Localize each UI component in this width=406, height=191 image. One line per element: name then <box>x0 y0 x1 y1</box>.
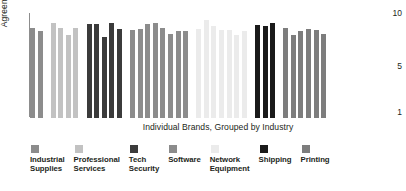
chart-legend: Industrial SuppliesProfessional Services… <box>30 145 406 173</box>
bar-group <box>255 8 278 118</box>
bar <box>314 30 319 118</box>
bar-chart: Agreement 10 5 1 Individual Brands, Grou… <box>0 0 406 191</box>
bar <box>73 28 78 118</box>
bar-group <box>130 8 191 118</box>
bar <box>30 28 35 118</box>
legend-swatch-icon <box>169 145 177 153</box>
legend-swatch-icon <box>75 145 83 153</box>
bar <box>176 31 181 118</box>
bar-group <box>30 8 45 118</box>
bar <box>298 31 303 118</box>
bar <box>219 30 224 118</box>
bar <box>138 29 143 118</box>
bar <box>242 31 247 118</box>
bar <box>283 28 288 118</box>
bar <box>255 25 260 118</box>
x-axis-label: Individual Brands, Grouped by Industry <box>30 122 406 132</box>
bar <box>204 20 209 118</box>
legend-item-professional-services[interactable]: Professional Services <box>74 145 120 173</box>
legend-swatch-icon <box>31 145 39 153</box>
bar-group <box>87 8 125 118</box>
bar-group <box>196 8 249 118</box>
bar-group <box>283 8 329 118</box>
plot-area <box>30 8 406 118</box>
bar <box>160 28 165 118</box>
legend-item-software[interactable]: Software <box>168 145 201 165</box>
bar <box>117 29 122 118</box>
legend-item-label: Tech Security <box>129 156 159 173</box>
legend-item-label: Professional Services <box>74 156 120 173</box>
bar <box>270 23 275 118</box>
legend-swatch-icon <box>302 145 310 153</box>
legend-item-shipping[interactable]: Shipping <box>259 145 292 165</box>
bar-group <box>51 8 81 118</box>
bar <box>38 31 43 118</box>
legend-swatch-icon <box>130 145 138 153</box>
y-axis-label: Agreement <box>0 0 9 38</box>
bar <box>145 24 150 118</box>
bar <box>196 29 201 118</box>
bar-groups <box>30 8 406 118</box>
bar <box>321 34 326 118</box>
legend-item-label: Printing <box>301 156 330 165</box>
bar <box>102 37 107 118</box>
bar <box>109 23 114 118</box>
bar <box>94 24 99 118</box>
legend-item-label: Industrial Supplies <box>30 156 65 173</box>
legend-item-industrial-supplies[interactable]: Industrial Supplies <box>30 145 65 173</box>
bar <box>51 23 56 118</box>
legend-item-label: Software <box>168 156 201 165</box>
legend-swatch-icon <box>260 145 268 153</box>
bar <box>87 24 92 118</box>
bar <box>291 35 296 118</box>
bar <box>211 26 216 118</box>
bar <box>153 23 158 118</box>
bar <box>234 35 239 118</box>
bar <box>227 30 232 118</box>
legend-swatch-icon <box>211 145 219 153</box>
bar <box>263 26 268 118</box>
legend-item-printing[interactable]: Printing <box>301 145 330 165</box>
legend-item-label: Shipping <box>259 156 292 165</box>
bar <box>183 31 188 118</box>
bar <box>66 35 71 118</box>
bar <box>306 29 311 118</box>
bar <box>168 34 173 118</box>
bar <box>58 28 63 118</box>
bar <box>130 30 135 118</box>
legend-item-network-equipment[interactable]: Network Equipment <box>210 145 250 173</box>
legend-item-tech-security[interactable]: Tech Security <box>129 145 159 173</box>
legend-item-label: Network Equipment <box>210 156 250 173</box>
